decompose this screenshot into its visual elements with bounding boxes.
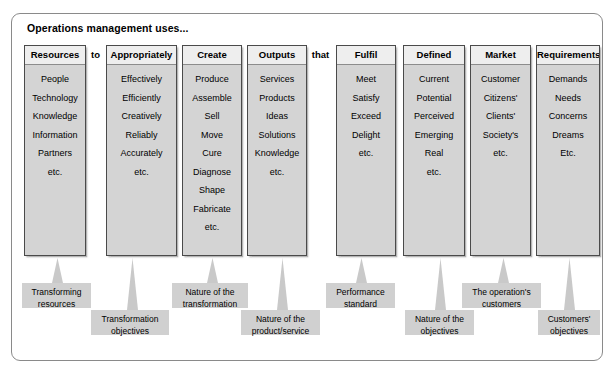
column-items: ProduceAssembleSellMoveCureDiagnoseShape… [183, 65, 241, 237]
callout-label[interactable]: Nature of thetransformation [172, 283, 248, 308]
column-item: Needs [537, 89, 599, 108]
callout-label-line: objectives [410, 326, 469, 338]
callout-label-line: standard [331, 299, 390, 311]
column-item: Diagnose [183, 163, 241, 182]
callout-arrow-icon [126, 258, 139, 310]
callout-label-line: Performance [331, 287, 390, 299]
callout-label-line: Customers' [543, 314, 595, 326]
column-items: PeopleTechnologyKnowledgeInformationPart… [25, 65, 85, 181]
callout-label-line: objectives [543, 326, 595, 338]
column-item: Potential [404, 89, 464, 108]
column-item: Current [404, 70, 464, 89]
column-header: Defined [404, 46, 464, 65]
callout-arrow-icon [355, 258, 368, 283]
column-item: Concerns [537, 107, 599, 126]
column-item: Efficiently [107, 89, 176, 108]
column-header: Market [471, 46, 530, 65]
callout-label[interactable]: Performancestandard [326, 283, 395, 308]
column-item: Services [248, 70, 306, 89]
column-item: etc. [404, 163, 464, 182]
connector-word-that: that [308, 46, 333, 64]
diagram-canvas: Operations management uses... ResourcesP… [0, 0, 615, 379]
callout-label-line: Nature of the [177, 287, 243, 299]
column-create[interactable]: CreateProduceAssembleSellMoveCureDiagnos… [182, 45, 242, 256]
callout-label[interactable]: The operation'scustomers [462, 283, 541, 308]
callout-arrow-icon [206, 258, 219, 283]
callout-label-line: objectives [96, 326, 164, 338]
column-header: Create [183, 46, 241, 65]
callout-label[interactable]: Nature of theobjectives [405, 310, 474, 335]
column-item: Perceived [404, 107, 464, 126]
column-header: Appropriately [107, 46, 176, 65]
column-item: Effectively [107, 70, 176, 89]
column-item: Real [404, 144, 464, 163]
column-item: Knowledge [248, 144, 306, 163]
column-item: Citizens' [471, 89, 530, 108]
diagram-title: Operations management uses... [27, 22, 189, 34]
callout-label-line: Nature of the [410, 314, 469, 326]
column-item: Exceed [337, 107, 395, 126]
column-item: Technology [25, 89, 85, 108]
column-item: etc. [183, 218, 241, 237]
column-items: DemandsNeedsConcernsDreamsEtc. [537, 65, 599, 163]
callout-label-line: transformation [177, 299, 243, 311]
callout-label[interactable]: Customers'objectives [538, 310, 600, 335]
column-item: Emerging [404, 126, 464, 145]
column-item: Accurately [107, 144, 176, 163]
column-appropriately[interactable]: AppropriatelyEffectivelyEfficientlyCreat… [106, 45, 177, 256]
column-item: etc. [25, 163, 85, 182]
column-item: Dreams [537, 126, 599, 145]
callout-label-line: product/service [246, 326, 315, 338]
callout-label-line: Transforming [27, 287, 86, 299]
column-item: Society's [471, 126, 530, 145]
column-item: Clients' [471, 107, 530, 126]
column-item: Cure [183, 144, 241, 163]
column-item: Knowledge [25, 107, 85, 126]
column-header: Fulfil [337, 46, 395, 65]
column-item: Creatively [107, 107, 176, 126]
column-item: Fabricate [183, 200, 241, 219]
callout-label-line: The operation's [467, 287, 536, 299]
column-header: Outputs [248, 46, 306, 65]
callout-label-line: resources [27, 299, 86, 311]
column-resources[interactable]: ResourcesPeopleTechnologyKnowledgeInform… [24, 45, 86, 256]
column-item: Satisfy [337, 89, 395, 108]
column-item: Meet [337, 70, 395, 89]
column-item: Produce [183, 70, 241, 89]
column-item: Delight [337, 126, 395, 145]
column-item: Products [248, 89, 306, 108]
connector-word-to: to [87, 46, 104, 64]
column-items: EffectivelyEfficientlyCreativelyReliably… [107, 65, 176, 181]
callout-arrow-icon [276, 258, 289, 310]
column-item: Information [25, 126, 85, 145]
column-market[interactable]: MarketCustomerCitizens'Clients'Society's… [470, 45, 531, 256]
column-defined[interactable]: DefinedCurrentPotentialPerceivedEmerging… [403, 45, 465, 256]
callout-label-line: customers [467, 299, 536, 311]
callout-arrow-icon [497, 258, 510, 283]
column-item: Partners [25, 144, 85, 163]
column-item: Assemble [183, 89, 241, 108]
column-items: MeetSatisfyExceedDelightetc. [337, 65, 395, 163]
column-item: Ideas [248, 107, 306, 126]
column-item: People [25, 70, 85, 89]
column-item: Demands [537, 70, 599, 89]
column-requirements[interactable]: RequirementsDemandsNeedsConcernsDreamsEt… [536, 45, 600, 256]
column-item: Shape [183, 181, 241, 200]
column-items: CurrentPotentialPerceivedEmergingRealetc… [404, 65, 464, 181]
callout-arrow-icon [51, 258, 64, 283]
column-item: Sell [183, 107, 241, 126]
figure-caption [11, 370, 603, 379]
column-fulfil[interactable]: FulfilMeetSatisfyExceedDelightetc. [336, 45, 396, 256]
column-outputs[interactable]: OutputsServicesProductsIdeasSolutionsKno… [247, 45, 307, 256]
column-header: Resources [25, 46, 85, 65]
callout-label-line: Transformation [96, 314, 164, 326]
column-item: Customer [471, 70, 530, 89]
callout-label[interactable]: Nature of theproduct/service [241, 310, 320, 335]
callout-arrow-icon [563, 258, 576, 310]
callout-label[interactable]: Transformingresources [22, 283, 91, 308]
column-item: Move [183, 126, 241, 145]
column-item: etc. [107, 163, 176, 182]
column-item: Etc. [537, 144, 599, 163]
callout-label[interactable]: Transformationobjectives [91, 310, 169, 335]
callout-label-line: Nature of the [246, 314, 315, 326]
